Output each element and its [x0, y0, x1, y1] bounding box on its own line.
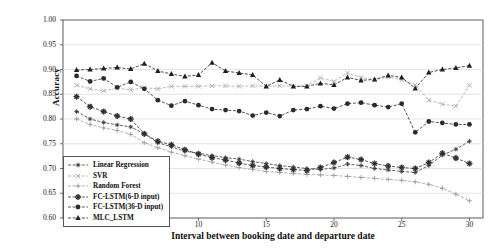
chart-legend: Linear RegressionSVRRandom ForestFC-LSTM… [63, 156, 170, 227]
legend-item[interactable]: SVR [67, 171, 163, 182]
legend-label: MLC_LSTM [93, 214, 134, 222]
legend-marker-circle-icon [67, 202, 89, 212]
legend-label: Linear Regression [93, 161, 149, 169]
legend-marker-plus-icon [67, 181, 89, 191]
legend-label: FC-LSTM(6-D input) [93, 193, 160, 201]
legend-item[interactable]: Random Forest [67, 181, 163, 192]
legend-label: SVR [93, 172, 107, 180]
legend-label: FC-LSTM(36-D input) [93, 203, 163, 211]
legend-item[interactable]: FC-LSTM(6-D input) [67, 192, 163, 203]
accuracy-line-chart: Accuracy Interval between booking date a… [0, 0, 499, 251]
legend-marker-triangle-icon [67, 213, 89, 223]
legend-item[interactable]: FC-LSTM(36-D input) [67, 202, 163, 213]
legend-item[interactable]: Linear Regression [67, 160, 163, 171]
legend-marker-star-icon [67, 160, 89, 170]
legend-label: Random Forest [93, 182, 141, 190]
legend-item[interactable]: MLC_LSTM [67, 213, 163, 224]
legend-box: Linear RegressionSVRRandom ForestFC-LSTM… [63, 156, 170, 227]
legend-marker-x-icon [67, 171, 89, 181]
legend-marker-star-bold-icon [67, 192, 89, 202]
